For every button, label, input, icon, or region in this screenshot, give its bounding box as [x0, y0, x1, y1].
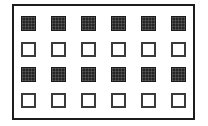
hollow-square-cell — [21, 93, 36, 108]
hollow-square-cell — [141, 42, 156, 57]
hollow-square-cell — [51, 42, 66, 57]
filled-square-cell — [111, 67, 126, 82]
grid-row — [21, 62, 186, 88]
filled-square-cell — [141, 16, 156, 31]
filled-square-cell — [81, 16, 96, 31]
hollow-square-cell — [141, 93, 156, 108]
filled-square-cell — [171, 16, 186, 31]
outer-rectangle-border — [12, 4, 195, 120]
hollow-square-cell — [171, 93, 186, 108]
filled-square-cell — [51, 16, 66, 31]
hollow-square-cell — [51, 93, 66, 108]
figure-canvas — [0, 0, 208, 126]
filled-square-cell — [141, 67, 156, 82]
grid-row — [21, 11, 186, 37]
hollow-square-cell — [81, 42, 96, 57]
filled-square-cell — [21, 67, 36, 82]
filled-square-cell — [81, 67, 96, 82]
filled-square-cell — [171, 67, 186, 82]
filled-square-cell — [51, 67, 66, 82]
hollow-square-cell — [21, 42, 36, 57]
grid-row — [21, 88, 186, 114]
square-grid — [14, 6, 193, 118]
hollow-square-cell — [81, 93, 96, 108]
hollow-square-cell — [111, 93, 126, 108]
filled-square-cell — [21, 16, 36, 31]
hollow-square-cell — [111, 42, 126, 57]
hollow-square-cell — [171, 42, 186, 57]
filled-square-cell — [111, 16, 126, 31]
grid-row — [21, 37, 186, 63]
